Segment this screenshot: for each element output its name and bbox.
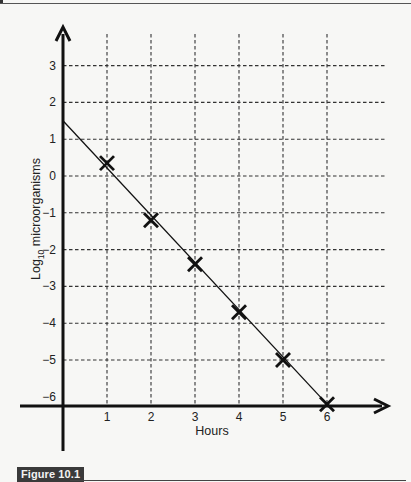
x-tick-label: 2 (148, 410, 155, 424)
x-tick-label: 6 (324, 410, 331, 424)
y-tick-label: 3 (49, 59, 56, 73)
x-tick-label: 3 (192, 410, 199, 424)
x-tick-label: 5 (280, 410, 287, 424)
figure-bottom-rule (70, 480, 406, 481)
x-tick-label: 4 (236, 410, 243, 424)
y-tick-label: 0 (49, 169, 56, 183)
x-tick-labels: 123456 (104, 410, 331, 424)
y-tick-labels: 3210−1−2−3−4−5−6 (42, 59, 56, 404)
y-tick-label: −3 (42, 279, 56, 293)
y-tick-label: 1 (49, 132, 56, 146)
x-axis-title: Hours (195, 424, 228, 438)
y-tick-label: 2 (49, 95, 56, 109)
chart-series (63, 121, 334, 411)
chart-grid (63, 34, 386, 406)
chart: 3210−1−2−3−4−5−6 123456 Hours Log10 micr… (0, 0, 411, 482)
y-tick-label: −4 (42, 316, 56, 330)
chart-axes (20, 27, 388, 451)
x-tick-label: 1 (104, 410, 111, 424)
y-tick-label: −5 (42, 353, 56, 367)
y-tick-label: −1 (42, 206, 56, 220)
y-tick-label: −6 (42, 390, 56, 404)
